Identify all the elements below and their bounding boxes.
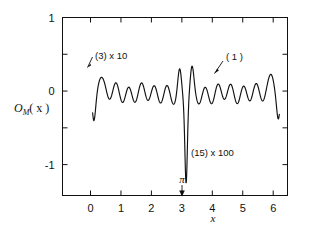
y-axis-title-symbol: O bbox=[14, 101, 23, 115]
annotation-order-3-label: (3) x 10 bbox=[95, 50, 127, 61]
annotation-order-15: (15) x 100 bbox=[191, 147, 234, 158]
y-tick-label-0: 1 bbox=[48, 12, 54, 24]
x-tick-label-5: 5 bbox=[240, 202, 246, 214]
y-tick-label-2: -1 bbox=[45, 159, 55, 171]
annotation-order-1-label: ( 1 ) bbox=[226, 51, 243, 62]
x-tick-label-1: 1 bbox=[118, 202, 124, 214]
annotation-pi-label: π bbox=[179, 173, 185, 185]
annotation-order-3: (3) x 10 bbox=[88, 50, 128, 68]
chart-canvas: 0123456 10-1 x OM( x ) (3) x 10 ( 1 ) (1… bbox=[0, 0, 319, 235]
annotation-order-1: ( 1 ) bbox=[215, 51, 243, 74]
x-axis-title: x bbox=[210, 212, 216, 224]
y-axis-tick-labels: 10-1 bbox=[45, 12, 55, 171]
annotation-order-1-arrowhead bbox=[215, 69, 219, 74]
x-tick-label-6: 6 bbox=[270, 202, 276, 214]
y-axis-title: OM( x ) bbox=[14, 101, 49, 117]
x-tick-label-3: 3 bbox=[179, 202, 185, 214]
x-tick-label-0: 0 bbox=[87, 202, 93, 214]
x-axis-ticks bbox=[91, 18, 274, 196]
x-axis-tick-labels: 0123456 bbox=[87, 202, 276, 214]
svg-text:OM( x ): OM( x ) bbox=[14, 101, 49, 117]
annotation-order-15-label: (15) x 100 bbox=[191, 147, 234, 158]
y-axis-title-argument: ( x ) bbox=[29, 101, 49, 115]
annotation-pi-marker: π bbox=[179, 173, 185, 197]
y-tick-label-1: 0 bbox=[48, 85, 54, 97]
data-curve-OM bbox=[93, 66, 280, 183]
x-tick-label-2: 2 bbox=[148, 202, 154, 214]
figure-container: 0123456 10-1 x OM( x ) (3) x 10 ( 1 ) (1… bbox=[0, 0, 319, 235]
